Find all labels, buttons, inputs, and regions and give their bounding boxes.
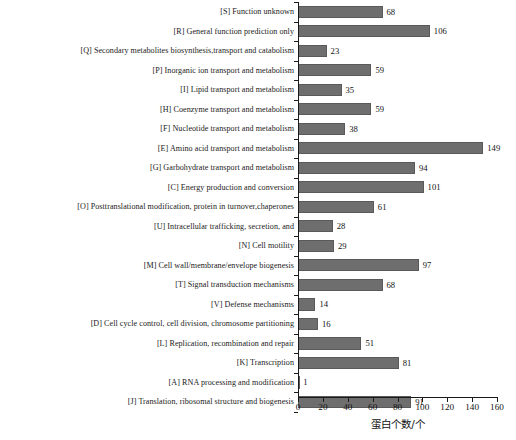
bar-value-label: 29 xyxy=(338,239,347,253)
x-axis-tick xyxy=(348,398,349,402)
x-axis-tick-label: 0 xyxy=(296,402,301,413)
bar-row: [J] Translation, ribosomal structure and… xyxy=(0,392,516,412)
category-label: [U] Intracellular trafficking, secretion… xyxy=(154,217,294,237)
bar-value-label: 35 xyxy=(346,83,355,97)
category-label: [S] Function unknown xyxy=(220,2,294,22)
y-axis-line xyxy=(298,2,299,397)
bar-value-label: 1 xyxy=(303,375,307,389)
bar-value-label: 59 xyxy=(375,102,384,116)
bar xyxy=(298,103,371,115)
y-axis-tick xyxy=(294,392,298,393)
y-axis-tick xyxy=(294,353,298,354)
bar-value-label: 51 xyxy=(365,336,374,350)
y-axis-tick xyxy=(294,373,298,374)
category-label: [P] Inorganic ion transport and metaboli… xyxy=(152,61,294,81)
y-axis-tick xyxy=(294,41,298,42)
y-axis-tick xyxy=(294,217,298,218)
bar-value-label: 94 xyxy=(419,161,428,175)
bar-value-label: 14 xyxy=(319,297,328,311)
bar-row: [T] Signal transduction mechanisms68 xyxy=(0,275,516,295)
y-axis-tick xyxy=(294,314,298,315)
bar-row: [E] Amino acid transport and metabolism1… xyxy=(0,139,516,159)
y-axis-tick xyxy=(294,295,298,296)
bar xyxy=(298,84,342,96)
x-axis-tick-label: 120 xyxy=(440,402,454,413)
x-axis-tick-label: 140 xyxy=(465,402,479,413)
bar xyxy=(298,201,374,213)
category-label: [N] Cell motility xyxy=(239,236,294,256)
y-axis-tick xyxy=(294,158,298,159)
bar xyxy=(298,25,430,37)
x-axis-tick-label: 60 xyxy=(368,402,377,413)
bar-value-label: 81 xyxy=(403,356,412,370)
category-label: [M] Cell wall/membrane/envelope biogenes… xyxy=(144,256,294,276)
bar-rows-container: [S] Function unknown68[R] General functi… xyxy=(0,2,516,412)
cog-function-bar-chart: [S] Function unknown68[R] General functi… xyxy=(0,0,516,440)
bar-row: [S] Function unknown68 xyxy=(0,2,516,22)
y-axis-tick xyxy=(294,61,298,62)
y-axis-tick xyxy=(294,22,298,23)
bar-row: [I] Lipid transport and metabolism35 xyxy=(0,80,516,100)
bar-value-label: 68 xyxy=(387,278,396,292)
category-label: [V] Defense mechanisms xyxy=(211,295,294,315)
bar-row: [A] RNA processing and modification1 xyxy=(0,373,516,393)
bar xyxy=(298,6,383,18)
bar-row: [Q] Secondary metabolites biosynthesis,t… xyxy=(0,41,516,61)
bar-value-label: 68 xyxy=(387,5,396,19)
y-axis-tick xyxy=(294,178,298,179)
category-label: [E] Amino acid transport and metabolism xyxy=(158,139,294,159)
bar-row: [F] Nucleotide transport and metabolism3… xyxy=(0,119,516,139)
bar-value-label: 149 xyxy=(487,141,500,155)
category-label: [R] General function prediction only xyxy=(174,22,294,42)
y-axis-tick xyxy=(294,197,298,198)
x-axis-title: 蛋白个数/个 xyxy=(298,418,498,431)
x-axis-tick xyxy=(398,398,399,402)
category-label: [C] Energy production and conversion xyxy=(168,178,294,198)
bar-row: [M] Cell wall/membrane/envelope biogenes… xyxy=(0,256,516,276)
bar xyxy=(298,298,315,310)
bar-row: [O] Posttranslational modification, prot… xyxy=(0,197,516,217)
bar-value-label: 101 xyxy=(428,180,441,194)
category-label: [H] Coenzyme transport and metabolism xyxy=(160,100,294,120)
category-label: [L] Replication, recombination and repai… xyxy=(157,334,294,354)
y-axis-tick xyxy=(294,139,298,140)
y-axis-tick xyxy=(294,119,298,120)
y-axis-tick xyxy=(294,334,298,335)
bar xyxy=(298,337,361,349)
x-axis-tick-label: 160 xyxy=(490,402,504,413)
bar-row: [R] General function prediction only106 xyxy=(0,22,516,42)
bar xyxy=(298,279,383,291)
bar-row: [G] Garbohydrate transport and metabolis… xyxy=(0,158,516,178)
x-axis-tick-label: 100 xyxy=(415,402,429,413)
bar-value-label: 23 xyxy=(331,44,340,58)
bar-row: [V] Defense mechanisms14 xyxy=(0,295,516,315)
bar-row: [L] Replication, recombination and repai… xyxy=(0,334,516,354)
x-axis-tick xyxy=(422,398,423,402)
bar xyxy=(298,357,399,369)
x-axis-tick xyxy=(447,398,448,402)
y-axis-tick xyxy=(294,80,298,81)
bar-row: [P] Inorganic ion transport and metaboli… xyxy=(0,61,516,81)
category-label: [G] Garbohydrate transport and metabolis… xyxy=(150,158,294,178)
category-label: [J] Translation, ribosomal structure and… xyxy=(128,392,294,412)
bar xyxy=(298,45,327,57)
y-axis-tick xyxy=(294,100,298,101)
bar-value-label: 106 xyxy=(434,24,447,38)
bar-value-label: 59 xyxy=(375,63,384,77)
y-axis-tick xyxy=(294,275,298,276)
bar-row: [H] Coenzyme transport and metabolism59 xyxy=(0,100,516,120)
bar xyxy=(298,220,333,232)
bar xyxy=(298,142,483,154)
category-label: [O] Posttranslational modification, prot… xyxy=(77,197,294,217)
bar-row: [U] Intracellular trafficking, secretion… xyxy=(0,217,516,237)
x-axis-tick-label: 40 xyxy=(343,402,352,413)
bar-value-label: 61 xyxy=(378,200,387,214)
bar-value-label: 16 xyxy=(322,317,331,331)
category-label: [Q] Secondary metabolites biosynthesis,t… xyxy=(80,41,294,61)
category-label: [D] Cell cycle control, cell division, c… xyxy=(91,314,294,334)
x-axis-tick xyxy=(373,398,374,402)
x-axis-tick xyxy=(323,398,324,402)
bar-value-label: 97 xyxy=(423,258,432,272)
bar-row: [D] Cell cycle control, cell division, c… xyxy=(0,314,516,334)
bar xyxy=(298,259,419,271)
